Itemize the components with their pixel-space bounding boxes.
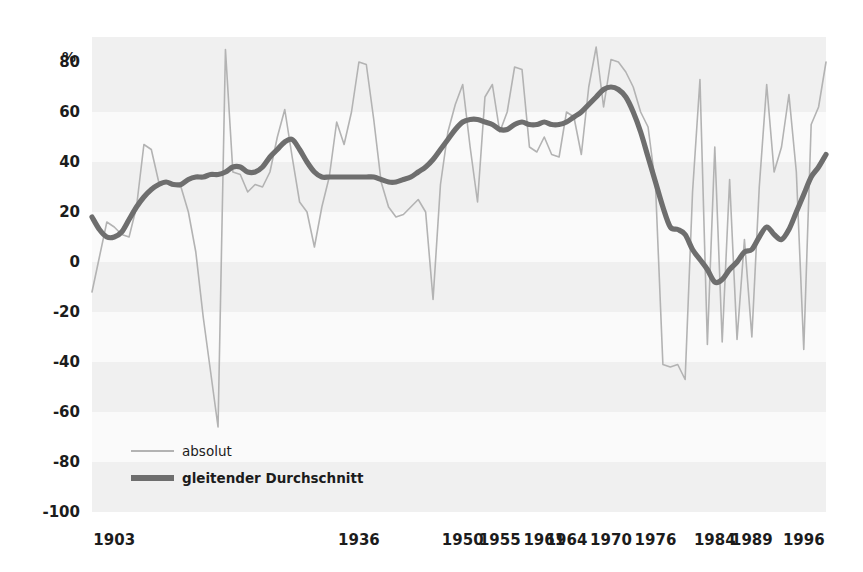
y-axis-tick-labels: 806040200-20-40-60-80-100 — [42, 53, 80, 521]
plot-background-bands — [92, 37, 826, 512]
x-axis-tick-label: 1964 — [546, 531, 588, 549]
x-axis-tick-label: 1903 — [93, 531, 135, 549]
x-axis-tick-label: 1976 — [635, 531, 677, 549]
grid-band — [92, 362, 826, 412]
legend-label: absolut — [182, 443, 232, 459]
y-axis-tick-label: 20 — [59, 203, 80, 221]
y-axis-tick-label: -20 — [53, 303, 80, 321]
legend-label: gleitender Durchschnitt — [182, 470, 364, 486]
x-axis-tick-label: 1950 — [442, 531, 484, 549]
y-axis-tick-label: 0 — [70, 253, 80, 271]
x-axis-tick-label: 1955 — [479, 531, 521, 549]
y-axis-unit-label: % — [62, 49, 76, 65]
y-axis-tick-label: -100 — [42, 503, 80, 521]
x-axis-tick-label: 1970 — [590, 531, 632, 549]
y-axis-tick-label: -40 — [53, 353, 80, 371]
grid-band — [92, 62, 826, 112]
chart-container: 806040200-20-40-60-80-100 19031936195019… — [0, 0, 863, 572]
y-axis-tick-label: 60 — [59, 103, 80, 121]
y-axis-tick-label: 40 — [59, 153, 80, 171]
x-axis-tick-label: 1989 — [731, 531, 773, 549]
x-axis-tick-labels: 1903193619501955196119641970197619841989… — [93, 531, 824, 549]
x-axis-tick-label: 1996 — [783, 531, 825, 549]
x-axis-tick-label: 1984 — [694, 531, 736, 549]
y-axis-tick-label: -80 — [53, 453, 80, 471]
x-axis-tick-label: 1936 — [338, 531, 380, 549]
line-chart: 806040200-20-40-60-80-100 19031936195019… — [0, 0, 863, 572]
grid-band — [92, 37, 826, 62]
y-axis-tick-label: -60 — [53, 403, 80, 421]
